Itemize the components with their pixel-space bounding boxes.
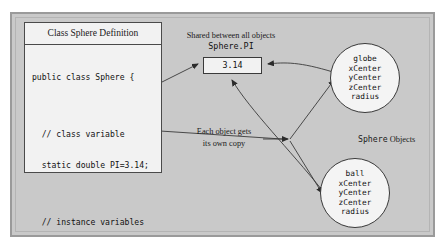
object-field: zCenter bbox=[349, 83, 382, 93]
object-field: zCenter bbox=[339, 198, 372, 208]
static-value-box: 3.14 bbox=[203, 57, 262, 74]
class-definition-box: Class Sphere Definition public class Sph… bbox=[24, 22, 162, 173]
own-copy-line1: Each object gets bbox=[197, 127, 251, 136]
class-box-title: Class Sphere Definition bbox=[25, 23, 161, 45]
object-name: globe bbox=[353, 54, 376, 64]
own-copy-line2: its own copy bbox=[203, 139, 245, 148]
static-field-name: Sphere.PI bbox=[176, 41, 286, 51]
object-globe: globe xCenter yCenter zCenter radius bbox=[330, 43, 400, 113]
object-ball: ball xCenter yCenter zCenter radius bbox=[320, 158, 390, 228]
objects-label-mono: Sphere bbox=[358, 134, 388, 144]
code-line: static double PI=3.14; bbox=[32, 160, 161, 170]
object-field: xCenter bbox=[339, 179, 372, 189]
object-name: ball bbox=[346, 169, 365, 179]
objects-label-serif: Objects bbox=[390, 135, 416, 144]
object-field: yCenter bbox=[349, 73, 382, 83]
code-line: public class Sphere { bbox=[32, 72, 161, 82]
code-blank bbox=[32, 103, 161, 109]
shared-static-label: Shared between all objects bbox=[176, 30, 286, 41]
object-field: radius bbox=[341, 207, 369, 217]
diagram-canvas: Class Sphere Definition public class Sph… bbox=[0, 0, 448, 248]
code-line: // class variable bbox=[32, 129, 161, 139]
class-box-code: public class Sphere { // class variable … bbox=[25, 45, 161, 248]
object-field: yCenter bbox=[339, 188, 372, 198]
code-line: // instance variables bbox=[32, 217, 161, 227]
code-blank bbox=[32, 191, 161, 197]
object-field: radius bbox=[351, 92, 379, 102]
sphere-objects-label: Sphere Objects bbox=[358, 134, 448, 144]
own-copy-label: Each object gets its own copy bbox=[182, 126, 266, 149]
object-field: xCenter bbox=[349, 64, 382, 74]
